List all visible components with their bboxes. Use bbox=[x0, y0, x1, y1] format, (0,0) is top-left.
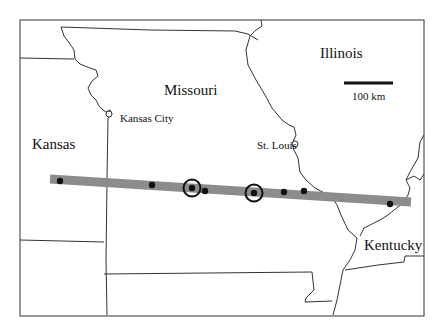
map-canvas bbox=[0, 0, 444, 330]
track-band bbox=[50, 179, 411, 202]
kansas-missouri-border bbox=[61, 27, 112, 315]
missouri-bootheel bbox=[305, 272, 332, 302]
kansas-south-border bbox=[20, 240, 104, 242]
missouri-south-border bbox=[104, 272, 312, 274]
data-point bbox=[57, 178, 63, 184]
illinois-top-border bbox=[250, 20, 262, 36]
missouri-north-border bbox=[61, 27, 258, 40]
map: Illinois Missouri Kansas Kentucky Kansas… bbox=[0, 0, 444, 330]
city-label-st-louis: St. Louis bbox=[257, 140, 297, 151]
state-label-kansas: Kansas bbox=[32, 137, 75, 152]
kansas-city-marker bbox=[106, 111, 112, 117]
data-point bbox=[387, 201, 393, 207]
data-point bbox=[189, 185, 195, 191]
data-point bbox=[251, 190, 257, 196]
data-point bbox=[149, 182, 155, 188]
kentucky-tennessee-border bbox=[345, 256, 424, 270]
kansas-north-border bbox=[20, 58, 74, 59]
state-label-kentucky: Kentucky bbox=[364, 238, 422, 253]
illinois-kentucky-border bbox=[360, 135, 424, 236]
state-label-illinois: Illinois bbox=[320, 46, 363, 61]
scale-bar-label: 100 km bbox=[352, 91, 385, 102]
city-label-kansas-city: Kansas City bbox=[120, 113, 173, 124]
data-point bbox=[281, 189, 287, 195]
state-label-missouri: Missouri bbox=[164, 83, 217, 98]
mississippi-river-border bbox=[246, 36, 357, 315]
data-point bbox=[202, 188, 208, 194]
data-point bbox=[301, 188, 307, 194]
